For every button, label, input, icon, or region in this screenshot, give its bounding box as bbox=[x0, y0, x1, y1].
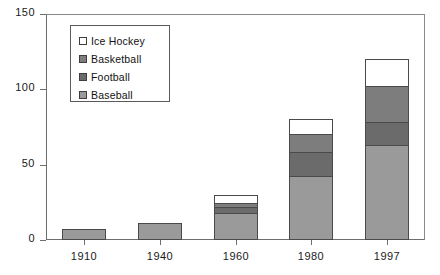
y-tick-label: 0 bbox=[28, 232, 35, 244]
bar-segment-baseball bbox=[365, 145, 409, 240]
legend-label: Baseball bbox=[91, 89, 133, 101]
bar-segment-basketball bbox=[289, 134, 333, 152]
legend-swatch-icon bbox=[79, 37, 87, 45]
chart-legend: Ice HockeyBasketballFootballBaseball bbox=[70, 25, 170, 102]
x-tick-label-1960: 1960 bbox=[223, 250, 249, 262]
legend-item-baseball: Baseball bbox=[79, 86, 169, 103]
bar-segment-baseball bbox=[289, 176, 333, 239]
y-tick-mark bbox=[40, 14, 46, 15]
bar-1960 bbox=[214, 195, 258, 240]
x-tick-label-1997: 1997 bbox=[374, 250, 400, 262]
legend-swatch-icon bbox=[79, 91, 87, 99]
bar-segment-baseball bbox=[138, 223, 182, 240]
legend-swatch-icon bbox=[79, 73, 87, 81]
legend-swatch-icon bbox=[79, 55, 87, 63]
legend-item-ice-hockey: Ice Hockey bbox=[79, 32, 169, 49]
x-tick-label-1980: 1980 bbox=[298, 250, 324, 262]
bar-segment-baseball bbox=[214, 213, 258, 240]
y-tick-label: 100 bbox=[15, 81, 35, 93]
x-tick-mark bbox=[311, 240, 312, 245]
bar-1980 bbox=[289, 119, 333, 240]
bar-segment-ice-hockey bbox=[214, 195, 258, 203]
y-tick-label: 50 bbox=[22, 157, 35, 169]
bar-segment-baseball bbox=[62, 229, 106, 240]
x-tick-mark bbox=[387, 240, 388, 245]
legend-label: Basketball bbox=[91, 53, 141, 65]
bar-segment-ice-hockey bbox=[289, 119, 333, 134]
y-tick-mark bbox=[40, 89, 46, 90]
bar-1910 bbox=[62, 229, 106, 240]
legend-label: Ice Hockey bbox=[91, 35, 145, 47]
y-tick-mark bbox=[40, 240, 46, 241]
bar-segment-basketball bbox=[365, 86, 409, 122]
x-tick-mark bbox=[160, 240, 161, 245]
legend-label: Football bbox=[91, 71, 130, 83]
bar-segment-football bbox=[365, 122, 409, 145]
bar-segment-football bbox=[289, 152, 333, 176]
bar-1940 bbox=[138, 223, 182, 240]
x-tick-mark bbox=[236, 240, 237, 245]
legend-item-football: Football bbox=[79, 68, 169, 85]
y-tick-label: 150 bbox=[15, 6, 35, 18]
bar-1997 bbox=[365, 59, 409, 240]
x-tick-label-1940: 1940 bbox=[147, 250, 173, 262]
legend-item-basketball: Basketball bbox=[79, 50, 169, 67]
x-tick-label-1910: 1910 bbox=[71, 250, 97, 262]
bar-segment-ice-hockey bbox=[365, 59, 409, 86]
stacked-bar-chart: 050100150 19101940196019801997 Ice Hocke… bbox=[0, 0, 440, 275]
x-tick-mark bbox=[84, 240, 85, 245]
y-tick-mark bbox=[40, 165, 46, 166]
